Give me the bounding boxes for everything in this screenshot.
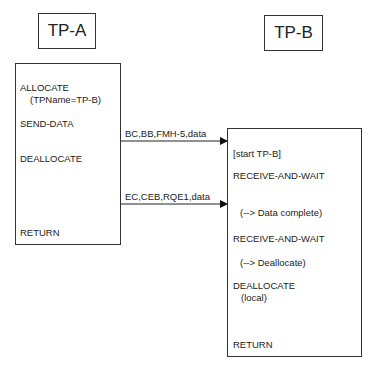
tp-b-title-box: TP-B bbox=[264, 15, 323, 51]
tp-a-step-send-data: SEND-DATA bbox=[20, 118, 73, 129]
tp-a-step-allocate: ALLOCATE bbox=[20, 82, 69, 93]
tp-b-step-return: RETURN bbox=[233, 339, 273, 350]
tp-a-step-tpname: (TPName=TP-B) bbox=[30, 94, 101, 105]
tp-b-step-data-complete: (--> Data complete) bbox=[240, 207, 322, 218]
tp-b-step-start: [start TP-B] bbox=[233, 148, 281, 159]
tp-b-step-deallocate: DEALLOCATE bbox=[233, 280, 295, 291]
tp-b-step-deallocate-notice: (--> Deallocate) bbox=[240, 257, 306, 268]
tp-a-step-return: RETURN bbox=[20, 227, 60, 238]
message-label-1: BC,BB,FMH-5,data bbox=[125, 128, 206, 139]
tp-b-step-local: (local) bbox=[241, 292, 267, 303]
tp-a-title-box: TP-A bbox=[38, 13, 96, 49]
tp-b-step-receive-1: RECEIVE-AND-WAIT bbox=[233, 170, 324, 181]
tp-a-title: TP-A bbox=[48, 21, 87, 41]
tp-b-step-receive-2: RECEIVE-AND-WAIT bbox=[233, 233, 324, 244]
message-label-2: EC,CEB,RQE1,data bbox=[125, 191, 210, 202]
tp-b-title: TP-B bbox=[274, 23, 313, 43]
tp-a-step-deallocate: DEALLOCATE bbox=[20, 153, 82, 164]
